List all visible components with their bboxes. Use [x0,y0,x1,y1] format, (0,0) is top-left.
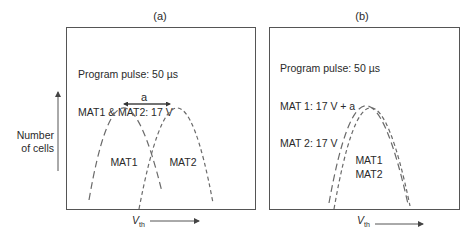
panel-b-mat2-curve [334,108,410,209]
panel-a-mat2-curve [139,108,213,209]
panel-a-mat1-curve [89,108,162,200]
panel-b-mat1-curve [329,106,408,204]
diagram-graphics [0,0,475,238]
